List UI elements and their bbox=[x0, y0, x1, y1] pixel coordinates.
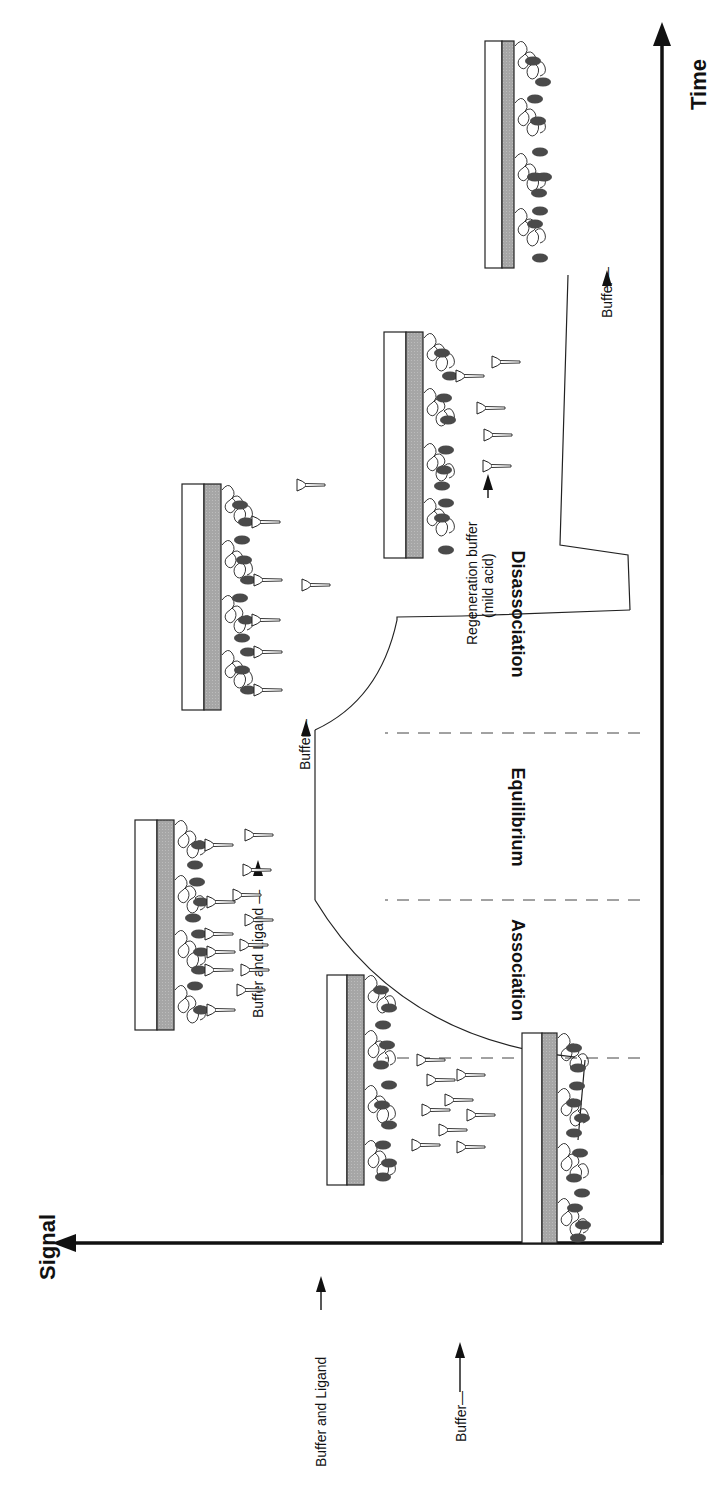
phase-label-dissociation: Disassociation bbox=[508, 550, 528, 677]
injection-label-regeneration: Regeneration buffer bbox=[464, 521, 480, 645]
time-axis-label: Time bbox=[686, 59, 710, 110]
phase-label-association: Association bbox=[508, 919, 528, 1021]
chip-baseline bbox=[522, 1033, 591, 1243]
time-axis bbox=[653, 22, 671, 1243]
sensorgram-curve bbox=[315, 275, 662, 1243]
injection-regeneration: Regeneration buffer (mild acid) bbox=[464, 474, 496, 645]
injection-buffer-ligand-2: Buffer and Ligand — bbox=[250, 860, 266, 1018]
chip-injection bbox=[327, 975, 495, 1185]
chip-final bbox=[485, 41, 552, 268]
injection-label-buffer-ligand-1: Buffer and Ligand bbox=[313, 1357, 329, 1467]
chip-dissociation bbox=[182, 479, 330, 710]
chip-regeneration bbox=[384, 332, 520, 558]
injection-label-regeneration-sub: (mild acid) bbox=[480, 553, 496, 618]
injection-buffer-1: Buffer— bbox=[453, 1342, 469, 1442]
injection-label-buffer-1: Buffer— bbox=[453, 1391, 469, 1442]
injection-buffer-3: Buffer— bbox=[599, 267, 615, 318]
phase-label-equilibrium: Equilibrium bbox=[508, 768, 528, 867]
injection-buffer-2: Buffer— bbox=[297, 719, 313, 770]
injection-buffer-ligand-1: Buffer and Ligand bbox=[313, 1276, 329, 1467]
sensorgram-diagram: Signal Time Association Equilibrium Disa… bbox=[0, 0, 710, 1495]
signal-axis-label: Signal bbox=[35, 1214, 60, 1280]
injection-label-buffer-ligand-2: Buffer and Ligand — bbox=[250, 890, 266, 1018]
